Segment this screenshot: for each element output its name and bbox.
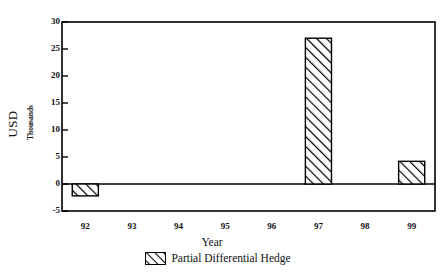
bar-97[interactable] [305,38,331,184]
chart-figure: USD Thousands 302520151050-5 92939495969… [0,0,448,274]
chart-legend: Partial Differential Hedge [0,252,448,265]
bar-92[interactable] [72,184,98,196]
x-axis-title: Year [0,236,448,248]
plot-frame [62,22,435,211]
legend-label: Partial Differential Hedge [171,253,290,265]
x-axis-title-text: Year [201,236,222,248]
bar-99[interactable] [399,161,425,184]
plot-area [0,0,448,274]
hatched-swatch [145,252,166,265]
